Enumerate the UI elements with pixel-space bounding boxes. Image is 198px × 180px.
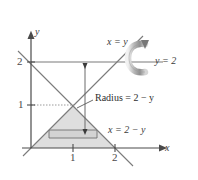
line-x-equals-2-minus-y-visible: [18, 51, 133, 166]
y-axis-label: y: [35, 27, 39, 37]
representative-rectangle: [49, 130, 97, 138]
shaded-region-triangle: [31, 105, 115, 148]
label-x-equals-y: x = y: [107, 37, 128, 47]
rotation-arrow-icon: [128, 40, 149, 72]
label-y-equals-2: y = 2: [155, 56, 176, 66]
label-x-equals-2-minus-y: x = 2 − y: [108, 125, 145, 135]
y-tick-label-2: 2: [17, 56, 23, 67]
revolution-diagram-svg: [0, 0, 198, 180]
x-axis-label: x: [165, 143, 169, 153]
x-tick-label-2: 2: [112, 152, 118, 163]
y-tick-label-1: 1: [18, 99, 24, 110]
figure-container: y x 2 1 1 2 x = y y = 2 Radius = 2 − y x…: [0, 0, 198, 180]
x-tick-label-1: 1: [70, 152, 76, 163]
label-radius: Radius = 2 − y: [95, 93, 154, 103]
